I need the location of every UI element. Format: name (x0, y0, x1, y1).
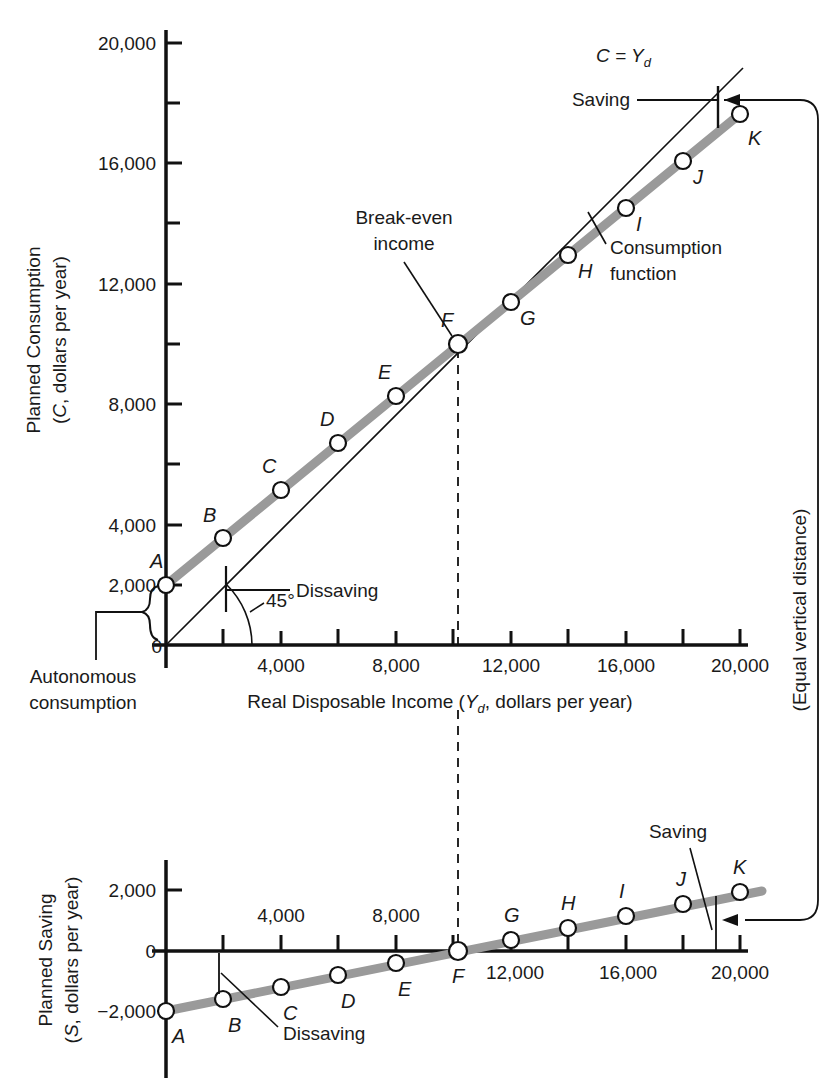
lower-ytick-0: 0 (145, 941, 156, 962)
data-point-A (158, 577, 174, 593)
lower-data-point-I (618, 908, 634, 924)
upper-y-axis-title: Planned Consumption (C, dollars per year… (23, 247, 70, 434)
lower-point-label-F: F (452, 965, 466, 987)
breakeven-label-line1: Break-even (355, 207, 452, 228)
lower-point-label-A: A (171, 1025, 185, 1047)
consumption-saving-figure: 20,000 16,000 12,000 8,000 4,000 2,000 0… (0, 0, 838, 1080)
upper-y-axis-title-line1: Planned Consumption (23, 247, 44, 434)
upper-x-ticks (223, 629, 740, 645)
consumption-fn-label-line1: Consumption (610, 237, 722, 258)
lower-y-axis-title: Planned Saving (S, dollars per year) (35, 877, 82, 1044)
upper-ylabel-post: , dollars per year) (49, 256, 70, 404)
lower-data-point-H (560, 920, 576, 936)
upper-dissaving-label: Dissaving (296, 580, 378, 601)
upper-xtick-16000: 16,000 (597, 655, 655, 676)
upper-xtick-12000: 12,000 (482, 655, 540, 676)
data-point-I (618, 200, 634, 216)
lower-point-label-J: J (675, 868, 687, 890)
upper-ytick-12000: 12,000 (98, 274, 156, 295)
point-label-H: H (578, 260, 593, 282)
lower-point-label-H: H (561, 892, 576, 914)
lower-data-point-K (732, 884, 748, 900)
lower-xtick-4000: 4,000 (257, 905, 305, 926)
upper-xtick-4000: 4,000 (257, 655, 305, 676)
upper-chart: 20,000 16,000 12,000 8,000 4,000 2,000 0… (23, 30, 769, 716)
lower-xtick-20000: 20,000 (711, 962, 769, 983)
lower-y-axis-title-line1: Planned Saving (35, 893, 56, 1026)
lower-point-label-C: C (283, 1002, 298, 1024)
data-point-B (215, 530, 231, 546)
autonomous-label-line2: consumption (29, 692, 137, 713)
upper-y-axis-title-line2: (C, dollars per year) (49, 256, 70, 424)
breakeven-label-line2: income (373, 233, 434, 254)
lower-saving-leader (690, 848, 712, 930)
lower-point-label-D: D (341, 990, 355, 1012)
upper-ytick-2000: 2,000 (108, 575, 156, 596)
lower-data-point-C (273, 979, 289, 995)
data-point-F (449, 335, 467, 353)
upper-xtick-8000: 8,000 (372, 655, 420, 676)
upper-ytick-16000: 16,000 (98, 153, 156, 174)
lower-ylabel-post: , dollars per year) (61, 877, 82, 1025)
lower-xtick-12000: 12,000 (486, 962, 544, 983)
data-point-H (560, 247, 576, 263)
autonomous-consumption-leader (96, 612, 142, 660)
lower-chart: 2,000 0 −2,000 4,000 8,000 12,000 16,000… (35, 821, 769, 1078)
data-point-E (388, 388, 404, 404)
identity-line-label: C = Yd (596, 45, 652, 70)
upper-xtick-20000: 20,000 (711, 655, 769, 676)
autonomous-label-line1: Autonomous (30, 666, 137, 687)
point-label-K: K (748, 127, 763, 149)
point-label-F: F (441, 309, 455, 331)
data-point-G (503, 294, 519, 310)
upper-ytick-20000: 20,000 (98, 33, 156, 54)
upper-ylabel-var: C (49, 404, 70, 418)
upper-x-axis-title: Real Disposable Income (Yd, dollars per … (247, 691, 632, 716)
lower-data-point-E (388, 955, 404, 971)
equal-distance-text-group: (Equal vertical distance) (789, 509, 810, 712)
lower-data-point-F (449, 942, 467, 960)
lower-data-point-D (330, 967, 346, 983)
point-label-G: G (520, 307, 536, 329)
identity-line-label-pre: C = (596, 45, 631, 66)
connector-arrow-upper (724, 94, 740, 106)
lower-xtick-8000: 8,000 (372, 905, 420, 926)
lower-point-label-G: G (504, 904, 520, 926)
upper-xlabel-pre: Real Disposable Income ( (247, 691, 465, 712)
point-label-J: J (692, 166, 704, 188)
point-label-C: C (262, 455, 277, 477)
lower-point-label-I: I (619, 880, 625, 902)
point-label-B: B (203, 504, 216, 526)
upper-xlabel-post: , dollars per year) (485, 691, 633, 712)
upper-y-ticks (166, 43, 182, 585)
lower-data-point-A (158, 1003, 174, 1019)
consumption-fn-label-line2: function (610, 263, 677, 284)
lower-dissaving-label: Dissaving (283, 1023, 365, 1044)
lower-point-label-K: K (733, 856, 748, 878)
point-label-E: E (378, 361, 392, 383)
lower-ytick-minus2000: −2,000 (97, 1001, 156, 1022)
angle-arc-leader (250, 603, 264, 612)
lower-data-point-J (675, 896, 691, 912)
lower-ytick-2000: 2,000 (108, 880, 156, 901)
data-point-C (273, 482, 289, 498)
point-label-I: I (636, 213, 642, 235)
equal-vertical-distance-label: (Equal vertical distance) (789, 509, 810, 712)
identity-line-45deg (166, 68, 743, 645)
angle-label: 45° (266, 590, 295, 611)
data-point-K (732, 106, 748, 122)
data-point-J (675, 153, 691, 169)
lower-point-label-E: E (398, 978, 412, 1000)
point-label-D: D (320, 408, 334, 430)
lower-saving-label: Saving (649, 821, 707, 842)
lower-data-point-B (215, 991, 231, 1007)
lower-ylabel-var: S (61, 1024, 82, 1037)
equal-distance-connector: (Equal vertical distance) (722, 94, 818, 926)
identity-line-label-sub: d (644, 55, 652, 70)
upper-ytick-8000: 8,000 (108, 394, 156, 415)
point-label-A: A (149, 550, 163, 572)
breakeven-leader (404, 262, 452, 336)
connector-arrow-lower (722, 914, 738, 926)
lower-y-axis-title-line2: (S, dollars per year) (61, 877, 82, 1044)
upper-ytick-4000: 4,000 (108, 515, 156, 536)
